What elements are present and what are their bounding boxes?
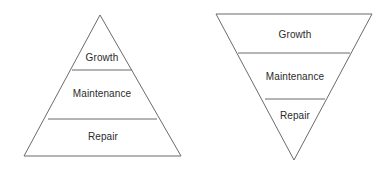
inverted-tier-label-repair: Repair bbox=[280, 110, 310, 122]
upright-tier-label-repair: Repair bbox=[88, 131, 118, 143]
upright-tier-label-maintenance: Maintenance bbox=[73, 88, 131, 100]
inverted-tier-label-growth: Growth bbox=[279, 29, 312, 41]
upright-tier-label-growth: Growth bbox=[86, 52, 119, 64]
pyramid-diagram: Growth Maintenance Repair Growth Mainten… bbox=[0, 0, 388, 171]
inverted-tier-label-maintenance: Maintenance bbox=[266, 71, 324, 83]
pyramid-outlines bbox=[0, 0, 388, 171]
